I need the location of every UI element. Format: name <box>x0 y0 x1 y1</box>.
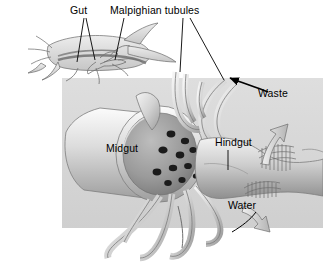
leader-malpighian-mid <box>180 18 183 72</box>
label-hindgut: Hindgut <box>215 137 252 148</box>
label-midgut: Midgut <box>106 143 138 154</box>
label-water: Water <box>228 200 256 211</box>
label-waste: Waste <box>258 88 288 99</box>
diagram-illustration <box>0 0 323 270</box>
figure-canvas: Gut Malpighian tubules Midgut Hindgut Wa… <box>0 0 323 270</box>
label-malpighian-tubules: Malpighian tubules <box>110 5 199 16</box>
label-gut: Gut <box>70 5 87 16</box>
leader-malpighian-right <box>190 18 224 80</box>
grasshopper-habitus <box>28 23 176 84</box>
